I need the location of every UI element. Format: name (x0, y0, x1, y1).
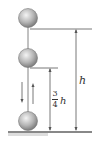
rebound-fraction: 3 4 (52, 90, 58, 109)
ball-bottom-icon (19, 112, 38, 131)
down-arrow-icon (21, 99, 24, 103)
fraction-numerator: 3 (52, 90, 57, 98)
rebound-arrowhead-top-icon (49, 68, 52, 72)
fraction-denominator: 4 (52, 101, 57, 109)
bouncing-ball-diagram (0, 0, 104, 141)
rebound-h-label: h (60, 95, 66, 106)
ground-shadow (8, 133, 48, 136)
ball-top-icon (19, 9, 38, 28)
ball-middle-icon (19, 49, 38, 68)
h-arrowhead-top-icon (75, 29, 78, 33)
h-arrowhead-bottom-icon (75, 127, 78, 131)
rebound-arrowhead-bottom-icon (49, 127, 52, 131)
h-label: h (79, 74, 86, 87)
ground-line (8, 131, 92, 133)
up-arrow-icon (32, 83, 35, 87)
